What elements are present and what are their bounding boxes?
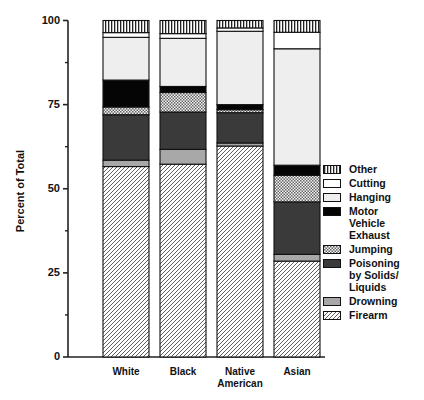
bar-2 — [217, 21, 263, 358]
bar-segment-motor-vehicle-exhaust — [160, 86, 206, 92]
bar-segment-drowning — [274, 254, 320, 261]
legend-swatch-icon — [323, 311, 341, 320]
legend-label: Hanging — [349, 191, 391, 203]
legend-label: Firearm — [349, 309, 388, 321]
legend-swatch-icon — [323, 245, 341, 254]
y-tick-label: 50 — [20, 182, 60, 194]
bar-segment-hanging — [217, 31, 263, 104]
bar-segment-jumping — [274, 175, 320, 202]
legend-label: Jumping — [349, 243, 393, 255]
bar-segment-firearm — [160, 164, 206, 357]
bar-segment-poisoning-by-solids-liquids — [160, 112, 206, 149]
legend-item: Poisoningby Solids/Liquids — [323, 257, 423, 293]
bar-segment-poisoning-by-solids-liquids — [103, 115, 149, 160]
legend-item: Other — [323, 163, 423, 175]
legend-label: Cutting — [349, 177, 386, 189]
legend-swatch-icon — [323, 259, 341, 268]
y-tick-label: 25 — [20, 266, 60, 278]
y-tick-label: 100 — [20, 14, 60, 26]
bar-segment-poisoning-by-solids-liquids — [274, 202, 320, 254]
legend-swatch-icon — [323, 207, 341, 216]
bar-segment-cutting — [274, 32, 320, 48]
bar-segment-hanging — [103, 37, 149, 80]
bar-segment-hanging — [160, 38, 206, 86]
bar-segment-motor-vehicle-exhaust — [217, 105, 263, 110]
bar-segment-other — [217, 21, 263, 28]
bar-segment-firearm — [103, 167, 149, 357]
bar-segment-jumping — [160, 93, 206, 113]
legend-item: Cutting — [323, 177, 423, 189]
legend-item: MotorVehicleExhaust — [323, 205, 423, 241]
bar-segment-cutting — [103, 33, 149, 38]
bar-segment-jumping — [103, 107, 149, 115]
bar-segment-other — [274, 21, 320, 33]
bar-segment-drowning — [103, 160, 149, 166]
legend: OtherCuttingHangingMotorVehicleExhaustJu… — [323, 163, 423, 323]
legend-item: Drowning — [323, 295, 423, 307]
bar-segment-other — [160, 21, 206, 34]
bar-segment-drowning — [160, 149, 206, 164]
legend-label: Poisoningby Solids/Liquids — [349, 257, 400, 293]
legend-item: Firearm — [323, 309, 423, 321]
bar-segment-cutting — [160, 34, 206, 39]
bar-segment-firearm — [217, 146, 263, 357]
y-tick-label: 75 — [20, 98, 60, 110]
bar-segment-hanging — [274, 49, 320, 165]
legend-label: Drowning — [349, 295, 397, 307]
bar-0 — [103, 21, 149, 358]
bar-segment-motor-vehicle-exhaust — [274, 165, 320, 175]
legend-item: Hanging — [323, 191, 423, 203]
bar-segment-poisoning-by-solids-liquids — [217, 113, 263, 143]
bars — [103, 21, 320, 358]
legend-label: MotorVehicleExhaust — [349, 205, 390, 241]
legend-item: Jumping — [323, 243, 423, 255]
y-tick-label: 0 — [20, 350, 60, 362]
x-category-label: Asian — [262, 366, 332, 378]
bar-segment-firearm — [274, 261, 320, 357]
bar-1 — [160, 21, 206, 358]
bar-segment-motor-vehicle-exhaust — [103, 80, 149, 107]
bar-3 — [274, 21, 320, 358]
legend-swatch-icon — [323, 165, 341, 174]
stacked-bar-chart: Percent of Total 0255075100 WhiteBlackNa… — [0, 0, 424, 400]
legend-swatch-icon — [323, 297, 341, 306]
legend-label: Other — [349, 163, 377, 175]
legend-swatch-icon — [323, 179, 341, 188]
bar-segment-other — [103, 21, 149, 33]
legend-swatch-icon — [323, 193, 341, 202]
